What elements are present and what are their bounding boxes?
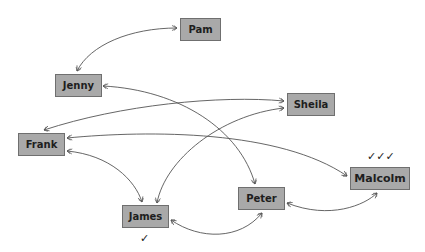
node-label: Frank — [26, 139, 58, 150]
node-label: Sheila — [294, 99, 329, 110]
node-label: Malcolm — [354, 172, 405, 185]
node-frank: Frank — [18, 133, 65, 156]
edge-malcolm-frank — [67, 134, 347, 176]
node-jenny: Jenny — [55, 74, 102, 97]
malcolm-ticks: ✓✓✓ — [367, 150, 395, 163]
node-label: James — [129, 211, 163, 222]
node-label: Pam — [188, 24, 212, 35]
node-label: Jenny — [63, 80, 94, 91]
edge-james-peter — [171, 213, 262, 234]
james-ticks: ✓ — [140, 232, 149, 245]
node-pam: Pam — [180, 18, 221, 41]
edge-peter-malcolm — [287, 193, 377, 211]
node-malcolm: Malcolm — [350, 167, 410, 190]
node-james: James — [122, 205, 169, 228]
edge-pam-jenny — [77, 28, 177, 71]
node-peter: Peter — [238, 187, 285, 210]
edge-jenny-peter — [103, 86, 255, 184]
node-sheila: Sheila — [287, 93, 335, 116]
edge-frank-james — [67, 151, 142, 202]
edge-frank-sheila — [44, 99, 284, 130]
node-label: Peter — [246, 193, 277, 204]
